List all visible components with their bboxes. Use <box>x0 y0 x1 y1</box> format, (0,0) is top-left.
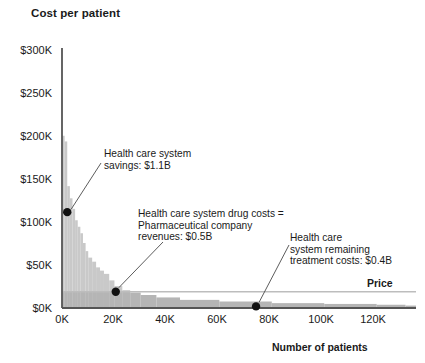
chart-container: Cost per patient $0K $50K $100K $150K $2… <box>0 0 425 363</box>
area-above-price-line <box>62 136 130 292</box>
drug-cost-marker <box>112 288 120 296</box>
savings-marker <box>63 208 71 216</box>
chart-plot-area <box>0 0 425 363</box>
remaining-cost-marker <box>252 302 260 310</box>
